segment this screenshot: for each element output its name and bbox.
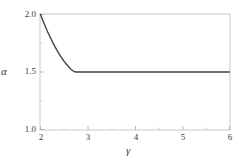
y-tick-label-2-0: 2.0 (12, 10, 36, 19)
y-tick-label-1-5: 1.5 (12, 67, 36, 76)
x-tick-label-2: 2 (33, 133, 49, 142)
figure-container: 2.0 1.5 1.0 α 2 3 4 5 6 γ (0, 0, 239, 163)
x-tick-label-4: 4 (128, 133, 144, 142)
x-axis-title: γ (126, 145, 130, 156)
x-tick-label-5: 5 (175, 133, 191, 142)
x-tick-label-6: 6 (222, 133, 238, 142)
y-axis-title: α (1, 66, 7, 77)
x-tick-label-3: 3 (80, 133, 96, 142)
